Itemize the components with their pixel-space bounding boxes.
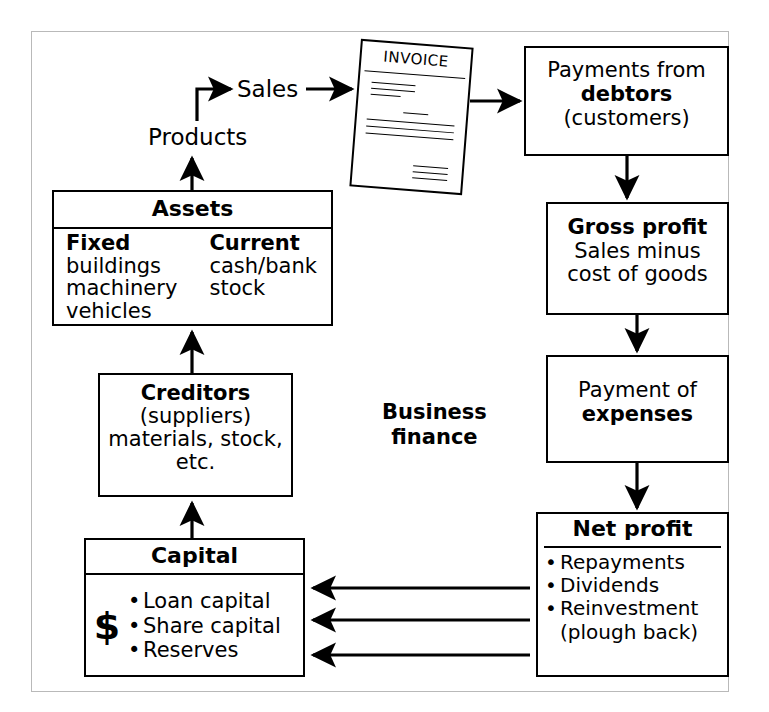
assets-fixed-item: buildings <box>66 255 197 277</box>
assets-column-current: Current cash/bank stock <box>197 232 331 322</box>
net-profit-item-continuation: (plough back) <box>545 621 727 644</box>
net-profit-header: Net profit <box>538 514 727 546</box>
dollar-sign-icon: $ <box>86 607 128 645</box>
net-profit-list-item: Reinvestment <box>545 597 727 620</box>
gross-profit-title: Gross profit <box>548 216 727 240</box>
creditors-subtitle: (suppliers) <box>100 405 291 428</box>
creditors-detail: etc. <box>100 451 291 474</box>
assets-current-title: Current <box>209 232 331 255</box>
net-profit-box: Net profit Repayments Dividends Reinvest… <box>536 512 729 677</box>
net-profit-list: Repayments Dividends Reinvestment (ploug… <box>538 548 727 644</box>
assets-header: Assets <box>54 192 331 229</box>
assets-fixed-item: vehicles <box>66 300 197 322</box>
expenses-line2: expenses <box>548 403 727 427</box>
assets-fixed-item: machinery <box>66 277 197 299</box>
capital-list-item: Reserves <box>128 638 303 663</box>
capital-list-item: Share capital <box>128 614 303 639</box>
gross-profit-detail: Sales minus <box>548 240 727 264</box>
assets-box: Assets Fixed buildings machinery vehicle… <box>52 190 333 326</box>
payments-from-debtors-box: Payments from debtors (customers) <box>524 46 729 156</box>
assets-column-fixed: Fixed buildings machinery vehicles <box>54 232 197 322</box>
creditors-detail: materials, stock, <box>100 428 291 451</box>
expenses-line1: Payment of <box>548 379 727 403</box>
capital-box: Capital $ Loan capital Share capital Res… <box>84 538 305 677</box>
capital-list: Loan capital Share capital Reserves <box>128 589 303 663</box>
label-business-finance: Business finance <box>382 400 487 450</box>
business-finance-line2: finance <box>382 425 487 450</box>
net-profit-list-item: Dividends <box>545 574 727 597</box>
capital-body: $ Loan capital Share capital Reserves <box>86 575 303 677</box>
payments-debtors: debtors <box>526 83 727 107</box>
creditors-title: Creditors <box>100 382 291 405</box>
assets-current-item: cash/bank <box>209 255 331 277</box>
label-sales: Sales <box>237 76 298 102</box>
capital-header: Capital <box>86 540 303 575</box>
assets-current-item: stock <box>209 277 331 299</box>
payments-line1: Payments from <box>526 59 727 83</box>
assets-columns: Fixed buildings machinery vehicles Curre… <box>54 229 331 322</box>
assets-fixed-title: Fixed <box>66 232 197 255</box>
business-finance-line1: Business <box>382 400 487 425</box>
invoice-document: INVOICE <box>349 39 473 195</box>
creditors-box: Creditors (suppliers) materials, stock, … <box>98 373 293 497</box>
capital-list-item: Loan capital <box>128 589 303 614</box>
gross-profit-box: Gross profit Sales minus cost of goods <box>546 202 729 315</box>
payment-of-expenses-box: Payment of expenses <box>546 355 729 463</box>
gross-profit-detail: cost of goods <box>548 263 727 287</box>
label-products: Products <box>148 124 247 150</box>
business-finance-diagram: INVOICE Sales Products Business finance … <box>0 0 769 712</box>
net-profit-list-item: Repayments <box>545 551 727 574</box>
payments-customers: (customers) <box>526 107 727 131</box>
